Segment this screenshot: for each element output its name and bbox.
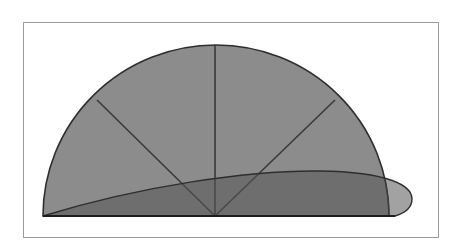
geometry-diagram xyxy=(0,0,462,245)
